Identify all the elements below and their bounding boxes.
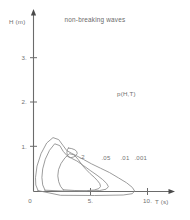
x-axis-arrow-icon bbox=[169, 189, 176, 194]
x-tick-label-5: 5. bbox=[88, 197, 94, 204]
contour-label-005: .05 bbox=[102, 155, 111, 161]
plot-canvas: non-breaking waves H (m) T (s) 1. 2. 3. … bbox=[0, 0, 190, 220]
y-tick-label-1: 1. bbox=[21, 143, 27, 150]
contour-label-0001: .001 bbox=[135, 155, 148, 161]
contour-label-02: .2 bbox=[80, 154, 86, 160]
wave-contour-figure: non-breaking waves H (m) T (s) 1. 2. 3. … bbox=[0, 0, 190, 220]
y-tick-label-2: 2. bbox=[21, 98, 27, 105]
contour-label-001: .01 bbox=[121, 155, 130, 161]
x-axis-label: T (s) bbox=[155, 198, 169, 205]
origin-label: 0 bbox=[28, 197, 32, 204]
y-axis-arrow-icon bbox=[31, 9, 36, 16]
density-annotation: p(H,T) bbox=[117, 90, 136, 97]
y-axis-label: H (m) bbox=[9, 18, 25, 25]
y-tick-label-3: 3. bbox=[21, 54, 27, 61]
figure-title: non-breaking waves bbox=[65, 16, 126, 24]
x-tick-label-10: 10. bbox=[143, 197, 152, 204]
